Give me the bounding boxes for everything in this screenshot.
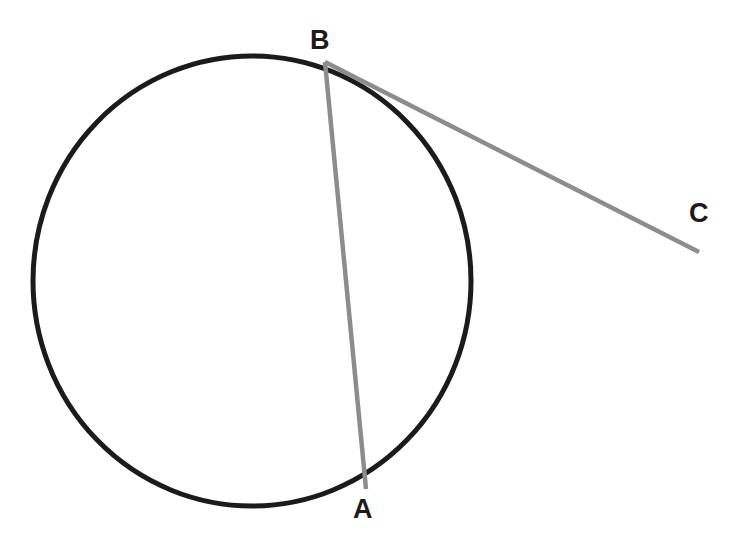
tangent-bc-line bbox=[325, 62, 699, 252]
chord-ba-line bbox=[325, 62, 366, 489]
circle-shape bbox=[33, 56, 471, 506]
geometry-canvas bbox=[0, 0, 729, 544]
vertex-label-c: C bbox=[689, 200, 709, 227]
vertex-label-a: A bbox=[353, 496, 373, 523]
geometry-diagram: B A C bbox=[0, 0, 729, 544]
vertex-label-b: B bbox=[310, 27, 330, 54]
